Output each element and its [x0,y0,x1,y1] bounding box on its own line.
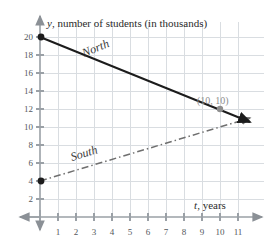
x-tick-labels: 1 2 3 4 5 6 7 8 9 10 11 [56,227,243,237]
y-axis-title: y, number of students (in thousands) [46,17,207,30]
y-tick-label: 10 [24,122,34,132]
x-tick-label: 5 [128,227,133,237]
y-tick-label: 16 [24,68,34,78]
y-tick-labels: 2 4 6 8 10 12 14 16 18 20 [24,32,34,204]
y-tick-label: 12 [24,104,33,114]
axes [20,16,262,230]
x-axis-title-rest: , years [197,199,226,211]
x-axis-title: t, years [194,199,226,211]
y-tick-label: 18 [24,50,34,60]
x-tick-label: 2 [74,227,79,237]
south-start-point-marker [38,178,45,185]
line-chart: 2 4 6 8 10 12 14 16 18 20 1 2 3 4 5 6 7 … [0,0,270,246]
x-tick-label: 7 [164,227,169,237]
intersection-annotation-label: (10, 10) [197,95,229,107]
x-tick-label: 8 [182,227,187,237]
x-tick-label: 11 [234,227,243,237]
x-tick-label: 1 [56,227,61,237]
y-tick-label: 20 [24,32,34,42]
y-tick-label: 6 [29,158,34,168]
y-tick-label: 4 [29,176,34,186]
x-tick-label: 9 [200,227,205,237]
x-tick-label: 10 [216,227,226,237]
north-start-point-marker [38,34,45,41]
y-tick-label: 2 [29,194,34,204]
x-tick-label: 4 [110,227,115,237]
intersection-point-marker [217,106,223,112]
series-label-north: North [79,36,111,60]
x-tick-label: 6 [146,227,151,237]
x-tick-label: 3 [92,227,97,237]
chart-container: 2 4 6 8 10 12 14 16 18 20 1 2 3 4 5 6 7 … [0,0,270,246]
y-tick-label: 8 [29,140,34,150]
y-axis-title-rest: , number of students (in thousands) [52,17,208,30]
y-tick-label: 14 [24,86,34,96]
